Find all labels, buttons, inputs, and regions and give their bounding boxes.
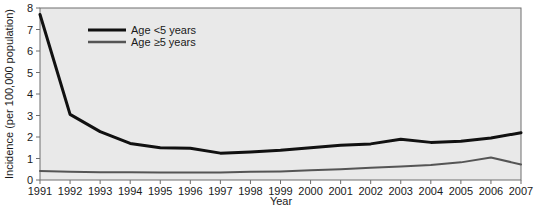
x-tick-label: 2005 — [449, 185, 473, 197]
x-tick-label: 1992 — [58, 185, 82, 197]
x-tick-label: 1997 — [208, 185, 232, 197]
x-tick-label: 2003 — [389, 185, 413, 197]
x-tick-label: 2004 — [419, 185, 443, 197]
y-tick-label: 5 — [27, 67, 33, 79]
legend-label-under5: Age <5 years — [131, 24, 197, 36]
y-tick-label: 2 — [27, 131, 33, 143]
x-tick-label: 2006 — [479, 185, 503, 197]
y-tick-label: 4 — [27, 88, 33, 100]
x-tick-label: 1991 — [28, 185, 52, 197]
y-axis-title: Incidence (per 100,000 population) — [3, 9, 15, 179]
legend-label-over5: Age ≥5 years — [131, 36, 196, 48]
x-axis-title: Year — [270, 195, 293, 207]
x-tick-label: 1996 — [178, 185, 202, 197]
x-tick-label: 1994 — [118, 185, 142, 197]
x-tick-label: 1998 — [238, 185, 262, 197]
y-tick-label: 3 — [27, 110, 33, 122]
chart-svg: 012345678 199119921993199419951996199719… — [0, 0, 541, 213]
y-tick-label: 8 — [27, 2, 33, 14]
incidence-line-chart: 012345678 199119921993199419951996199719… — [0, 0, 541, 213]
y-tick-label: 1 — [27, 153, 33, 165]
y-tick-label: 6 — [27, 45, 33, 57]
x-tick-label: 2001 — [328, 185, 352, 197]
plot-area-background — [40, 8, 521, 180]
y-axis-tick-labels: 012345678 — [27, 2, 33, 186]
x-tick-label: 2000 — [298, 185, 322, 197]
x-tick-label: 2002 — [358, 185, 382, 197]
x-tick-label: 1995 — [148, 185, 172, 197]
x-tick-label: 2007 — [509, 185, 533, 197]
y-tick-label: 7 — [27, 24, 33, 36]
x-tick-label: 1993 — [88, 185, 112, 197]
